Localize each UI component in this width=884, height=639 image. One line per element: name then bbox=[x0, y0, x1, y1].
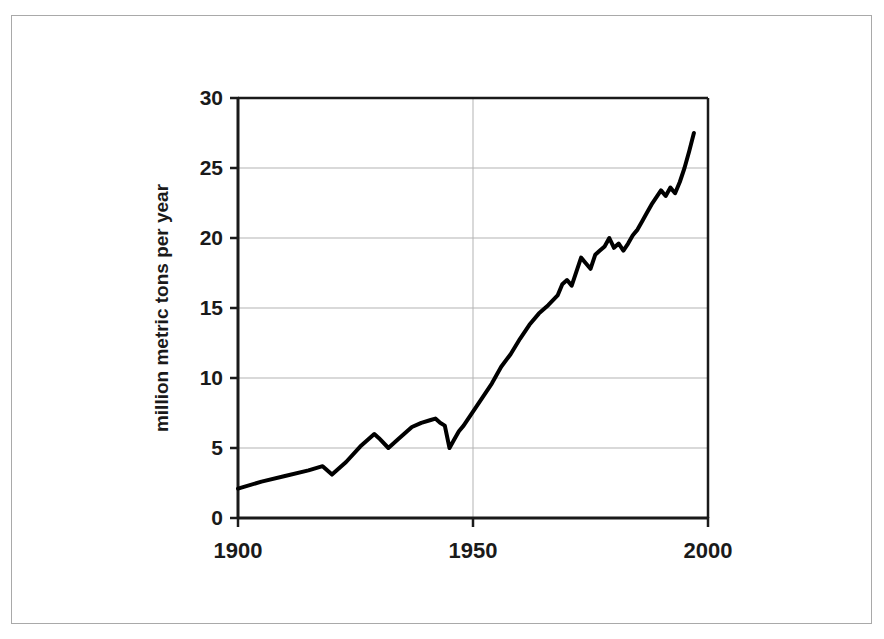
data-series bbox=[238, 133, 694, 489]
x-tick-label: 1950 bbox=[449, 538, 498, 563]
y-tick-label: 10 bbox=[200, 366, 223, 389]
gridlines bbox=[238, 98, 708, 518]
y-tick-label: 5 bbox=[211, 436, 223, 459]
y-tick-label: 0 bbox=[211, 506, 223, 529]
x-tick-label: 1900 bbox=[214, 538, 263, 563]
figure-container: 051015202530 190019502000 million metric… bbox=[0, 0, 884, 639]
y-tick-label: 30 bbox=[200, 86, 223, 109]
y-tick-label: 20 bbox=[200, 226, 223, 249]
y-axis-tick-labels: 051015202530 bbox=[200, 86, 224, 529]
line-chart: 051015202530 190019502000 million metric… bbox=[0, 0, 884, 639]
y-tick-label: 25 bbox=[200, 156, 224, 179]
chart-area: 051015202530 190019502000 million metric… bbox=[0, 0, 884, 639]
x-axis-tick-labels: 190019502000 bbox=[214, 538, 733, 563]
y-tick-label: 15 bbox=[200, 296, 224, 319]
x-tick-label: 2000 bbox=[684, 538, 733, 563]
tick-marks bbox=[230, 98, 708, 527]
y-axis-title-text: million metric tons per year bbox=[151, 183, 172, 432]
y-axis-title: million metric tons per year bbox=[151, 183, 172, 432]
series-line bbox=[238, 133, 694, 489]
